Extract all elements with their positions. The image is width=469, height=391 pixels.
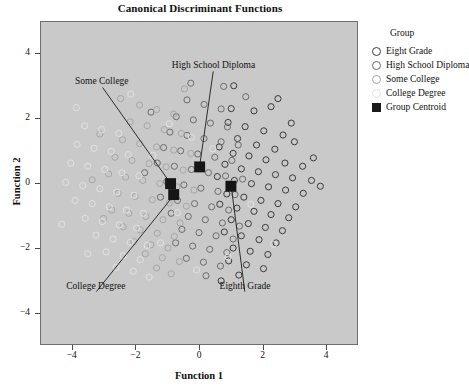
annotation-label: College Degree (66, 281, 125, 291)
data-point (218, 106, 224, 112)
data-point (120, 224, 126, 230)
legend-item-some-college[interactable]: Some College (372, 72, 467, 86)
data-point (93, 232, 99, 238)
data-point (222, 161, 228, 167)
group-centroid-marker (194, 161, 205, 172)
x-tick-label: −2 (123, 350, 147, 360)
y-tick-label: 4 (8, 47, 30, 57)
data-point (196, 230, 202, 236)
data-point (236, 272, 242, 278)
data-point (127, 239, 133, 245)
data-point (176, 258, 182, 264)
data-point (131, 192, 137, 198)
annotation-label: High School Diploma (172, 60, 255, 70)
data-point (228, 217, 234, 223)
data-point (289, 175, 295, 181)
y-tick-label: −2 (8, 242, 30, 252)
data-point (72, 197, 78, 203)
x-tick-label: 4 (314, 350, 338, 360)
data-point (85, 251, 91, 257)
legend-item-high-school-diploma[interactable]: High School Diploma (372, 58, 467, 72)
data-point (286, 215, 292, 221)
data-point (181, 182, 187, 188)
data-point (188, 80, 194, 86)
data-point (180, 167, 186, 173)
data-point (160, 217, 166, 223)
data-point (157, 240, 163, 246)
data-point (190, 117, 196, 123)
data-point (293, 204, 299, 210)
data-point (73, 105, 79, 111)
data-point (242, 124, 248, 130)
x-axis-label: Function 1 (40, 370, 358, 381)
data-point (260, 266, 266, 272)
data-point (154, 265, 160, 271)
data-point (178, 130, 184, 136)
data-point (236, 223, 242, 229)
data-point (200, 259, 206, 265)
data-point (144, 242, 150, 248)
data-point (308, 177, 314, 183)
data-point (80, 182, 86, 188)
data-point (125, 152, 131, 158)
data-point (224, 191, 230, 197)
data-point (258, 197, 264, 203)
data-point (283, 187, 289, 193)
legend-entries: Eight GradeHigh School DiplomaSome Colle… (372, 44, 467, 114)
data-point (133, 225, 139, 231)
data-point (59, 221, 65, 227)
data-point (280, 132, 286, 138)
data-point (119, 170, 125, 176)
data-point (240, 176, 246, 182)
data-point (114, 189, 120, 195)
data-point (183, 255, 189, 261)
data-point (288, 120, 294, 126)
data-point (137, 257, 143, 263)
filled-square-icon (372, 103, 381, 112)
open-circle-icon (372, 75, 381, 84)
group-centroid-marker (168, 189, 179, 200)
y-tick-label: 2 (8, 112, 30, 122)
data-point (300, 163, 306, 169)
data-point (246, 153, 252, 159)
data-point (142, 251, 148, 257)
legend: Group Eight GradeHigh School DiplomaSome… (372, 28, 467, 114)
data-point (119, 137, 125, 143)
data-point (235, 142, 241, 148)
data-point (238, 166, 244, 172)
data-point (63, 179, 69, 185)
data-point (193, 267, 199, 273)
data-point (168, 210, 174, 216)
data-point (129, 157, 135, 163)
data-point (110, 236, 116, 242)
x-tick-label: −4 (60, 350, 84, 360)
data-point (275, 201, 281, 207)
data-point (74, 141, 80, 147)
annotation-leader-line (200, 71, 214, 166)
data-point (272, 146, 278, 152)
data-point (118, 96, 124, 102)
y-tick-mark (35, 248, 40, 249)
data-point (263, 157, 269, 163)
data-point (207, 246, 213, 252)
data-point (255, 169, 261, 175)
data-point (108, 148, 114, 154)
data-point (177, 220, 183, 226)
legend-item-group-centroid[interactable]: Group Centroid (372, 100, 467, 114)
x-tick-label: 2 (251, 350, 275, 360)
data-point (116, 222, 122, 228)
data-point (171, 163, 177, 169)
legend-item-college-degree[interactable]: College Degree (372, 86, 467, 100)
data-point (275, 96, 281, 102)
data-point (238, 233, 244, 239)
annotation-leader-line (103, 88, 172, 185)
data-point (214, 173, 220, 179)
data-point (68, 160, 74, 166)
data-point (184, 97, 190, 103)
legend-item-eight-grade[interactable]: Eight Grade (372, 44, 467, 58)
data-point (248, 201, 254, 207)
legend-item-label: Eight Grade (386, 46, 432, 56)
data-point (230, 150, 236, 156)
data-point (191, 187, 197, 193)
data-point (137, 141, 143, 147)
